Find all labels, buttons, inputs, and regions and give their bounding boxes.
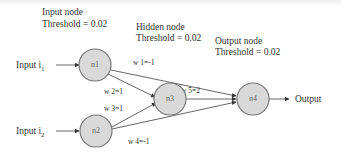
input-1: Input i1	[16, 60, 45, 73]
hidden-node-title: Hidden node	[136, 22, 185, 32]
hidden-node-annotation: Hidden node Threshold = 0.02	[136, 22, 202, 43]
weight-w1-label: w 1=-1	[133, 58, 155, 67]
node-n2: n2	[80, 115, 112, 147]
input-node-threshold: Threshold = 0.02	[42, 19, 108, 29]
hidden-node-threshold: Threshold = 0.02	[136, 33, 202, 43]
node-n1-label: n1	[91, 60, 99, 69]
node-n1: n1	[79, 49, 111, 81]
input-1-label: Input i1	[16, 60, 45, 73]
node-n3: n3	[154, 83, 186, 115]
output-node-threshold: Threshold = 0.02	[215, 47, 281, 57]
input-2: Input i2	[16, 126, 45, 139]
node-n4-label: n4	[249, 94, 257, 103]
node-n2-label: n2	[92, 126, 100, 135]
weight-w3-label: w 3=1	[104, 104, 123, 113]
input-2-label: Input i2	[16, 126, 45, 139]
weight-w2-label: w 2=1	[104, 87, 123, 96]
node-n3-label: n3	[166, 94, 174, 103]
output-node-annotation: Output node Threshold = 0.02	[215, 36, 281, 57]
input-node-annotation: Input node Threshold = 0.02	[42, 7, 108, 29]
output-label: Output	[295, 94, 322, 104]
output-node-title: Output node	[215, 36, 262, 46]
neural-network-diagram: Input node Threshold = 0.02 Hidden node …	[0, 0, 341, 162]
node-n4: n4	[237, 83, 269, 115]
weight-w4-label: w 4=-1	[128, 137, 150, 146]
input-node-title: Input node	[42, 7, 83, 17]
